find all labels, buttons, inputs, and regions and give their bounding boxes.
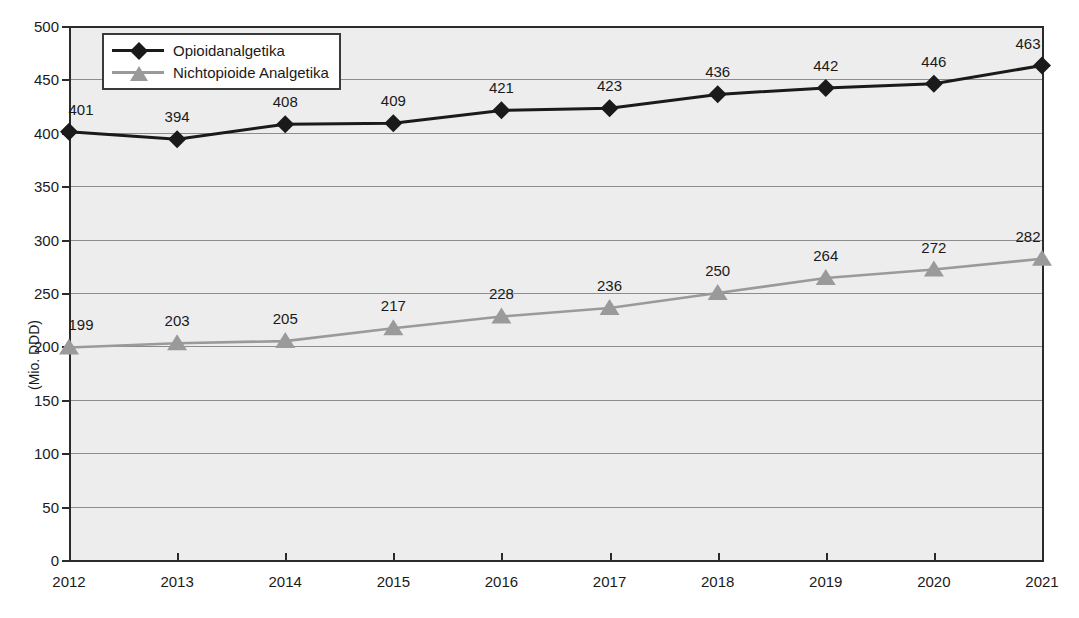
data-point-label: 463: [998, 36, 1058, 51]
data-point-label: 203: [147, 313, 207, 328]
data-point-label: 421: [471, 80, 531, 95]
legend-label-opioidanalgetika: Opioidanalgetika: [173, 43, 285, 58]
data-point-label: 228: [471, 286, 531, 301]
data-point-marker-diamond: [276, 115, 294, 133]
data-point-label: 442: [796, 58, 856, 73]
data-point-label: 409: [363, 93, 423, 108]
legend-item-nichtopioide-analgetika: Nichtopioide Analgetika: [112, 61, 329, 83]
data-point-label: 282: [998, 229, 1058, 244]
line-chart: 050100150200250300350400450500 201220132…: [0, 0, 1079, 618]
data-point-marker-diamond: [601, 99, 619, 117]
data-point-label: 236: [580, 278, 640, 293]
data-point-label: 272: [904, 240, 964, 255]
data-point-label: 446: [904, 54, 964, 69]
data-point-label: 423: [580, 78, 640, 93]
data-point-label: 408: [255, 94, 315, 109]
chart-legend: Opioidanalgetika Nichtopioide Analgetika: [102, 33, 341, 90]
legend-marker-triangle-icon: [112, 63, 164, 81]
data-point-marker-diamond: [168, 130, 186, 148]
legend-marker-diamond-icon: [112, 41, 164, 59]
legend-item-opioidanalgetika: Opioidanalgetika: [112, 39, 329, 61]
data-point-label: 264: [796, 248, 856, 263]
data-point-label: 205: [255, 311, 315, 326]
series-line-nichtopioide-analgetika: [69, 259, 1042, 348]
legend-label-nichtopioide-analgetika: Nichtopioide Analgetika: [173, 65, 329, 80]
data-point-label: 250: [688, 263, 748, 278]
data-point-label: 199: [51, 317, 111, 332]
data-point-marker-diamond: [492, 101, 510, 119]
data-point-label: 394: [147, 109, 207, 124]
data-point-label: 436: [688, 64, 748, 79]
data-point-marker-diamond: [60, 123, 78, 141]
data-point-marker-triangle: [1032, 250, 1052, 266]
data-point-marker-diamond: [709, 85, 727, 103]
data-point-marker-diamond: [1033, 57, 1051, 75]
data-point-marker-diamond: [384, 114, 402, 132]
data-point-label: 217: [363, 298, 423, 313]
data-point-label: 401: [51, 102, 111, 117]
series-plot-layer: [0, 0, 1079, 618]
data-point-marker-diamond: [925, 75, 943, 93]
data-point-marker-diamond: [817, 79, 835, 97]
